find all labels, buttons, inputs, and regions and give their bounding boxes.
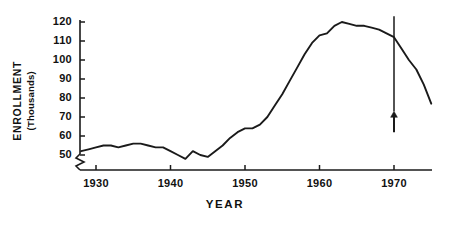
y-tick-label: 70 [38,110,72,122]
y-tick-label: 50 [38,148,72,160]
y-tick-label: 60 [38,129,72,141]
enrollment-line-chart: ENROLLMENT (Thousands) YEAR 506070809010… [0,0,450,232]
y-axis-break-symbol [76,154,84,170]
y-tick-label: 120 [38,15,72,27]
x-tick-label: 1960 [297,177,343,189]
x-tick-label: 1970 [371,177,417,189]
enrollment-series-line [81,22,431,159]
y-tick-label: 80 [38,91,72,103]
x-axis-title: YEAR [0,198,450,210]
x-tick-label: 1940 [148,177,194,189]
x-tick-label: 1930 [73,177,119,189]
x-tick-label: 1950 [222,177,268,189]
y-tick-label: 100 [38,53,72,65]
y-tick-label: 90 [38,72,72,84]
y-tick-label: 110 [38,34,72,46]
up-arrow-1970 [391,111,398,132]
